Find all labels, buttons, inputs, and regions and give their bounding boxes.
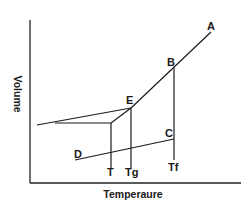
point-label-c: C <box>165 127 173 139</box>
point-label-e: E <box>126 94 133 106</box>
marker-label-tg: Tg <box>125 166 138 178</box>
y-axis-label: Volume <box>12 75 24 112</box>
marker-label-tf: Tf <box>168 161 179 173</box>
liquid-line <box>131 32 211 108</box>
marker-label-t: T <box>107 166 114 178</box>
x-axis-label: Temperaure <box>103 188 162 200</box>
crystal-line <box>75 139 174 160</box>
point-label-d: D <box>74 148 82 160</box>
volume-temperature-diagram: A B E C D T Tg Tf Temperaure Volume <box>0 0 249 210</box>
point-label-b: B <box>167 56 175 68</box>
point-label-a: A <box>207 20 215 32</box>
